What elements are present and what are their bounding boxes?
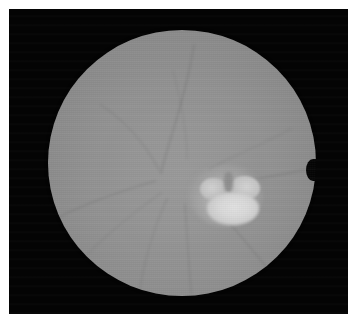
retinal-vessels (48, 30, 316, 296)
optic-disc-central-notch (224, 172, 233, 192)
fundus-circular-field (48, 30, 316, 296)
fundus-image-page (0, 0, 354, 322)
vessel-inferior-arcade (185, 205, 191, 293)
vessel-nasal-arcade (48, 181, 155, 223)
vessel-fine-branch-upper (173, 71, 187, 159)
image-frame (9, 9, 348, 314)
vessel-inferior-nasal-arcade (139, 199, 167, 293)
optic-disc-cup (207, 193, 259, 225)
rim-notch-artifact (306, 159, 320, 181)
vessel-superior-temporal-branch (209, 129, 291, 169)
vessel-superior-nasal-arcade (101, 105, 159, 170)
vessel-superior-temporal-arcade (161, 45, 194, 173)
vessel-fine-branch-lower-left (81, 193, 161, 261)
